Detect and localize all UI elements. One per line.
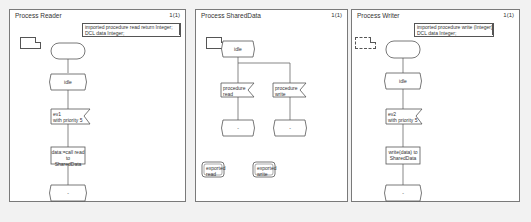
next-state-label-1[interactable]: - bbox=[223, 125, 253, 131]
next-state-label[interactable]: - bbox=[51, 190, 85, 196]
next-state-label[interactable]: - bbox=[386, 190, 420, 196]
writer-flow-graphics bbox=[352, 10, 521, 203]
start-symbol bbox=[51, 43, 85, 59]
state-idle-label[interactable]: idle bbox=[223, 46, 253, 52]
state-idle-label[interactable]: idle bbox=[386, 78, 420, 84]
input-signal-label[interactable]: ev1 with priority 5 bbox=[53, 111, 82, 123]
export-read-label[interactable]: exported read bbox=[206, 165, 225, 177]
reader-flow-graphics bbox=[10, 10, 187, 203]
task-label[interactable]: data:=call read to SharedData bbox=[51, 149, 85, 167]
frame-process-writer: Process Writer 1(1) imported procedure w… bbox=[351, 9, 520, 202]
task-label[interactable]: write(data) to SharedData bbox=[386, 149, 420, 161]
input-read-label[interactable]: procedure read bbox=[223, 85, 246, 97]
next-state-label-2[interactable]: - bbox=[275, 125, 305, 131]
input-write-label[interactable]: procedure write bbox=[275, 85, 298, 97]
input-signal-label[interactable]: ev2 with priority 5 bbox=[388, 111, 417, 123]
frame-process-reader: Process Reader 1(1) imported procedure r… bbox=[9, 9, 186, 202]
start-symbol bbox=[386, 41, 420, 58]
state-idle-label[interactable]: idle bbox=[51, 79, 85, 85]
export-write-label[interactable]: exported write bbox=[257, 165, 276, 177]
frame-process-shareddata: Process SharedData 1(1) idle procedure r… bbox=[195, 9, 348, 202]
